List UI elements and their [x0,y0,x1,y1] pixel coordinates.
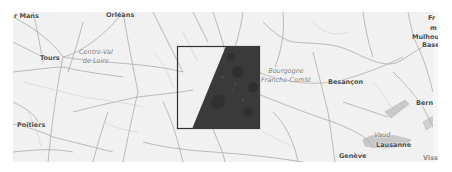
city-label-poitiers: Poitiers [17,122,45,129]
city-label-le-mans: r Mans [14,13,39,20]
city-label-besancon: Besançon [328,79,363,86]
city-label-lausanne: Lausanne [376,142,411,149]
region-label-line2: Franche-Comté [261,77,311,84]
city-label-geneve: Genève [339,153,366,160]
region-label-line1: Bourgogne [261,68,311,75]
city-label-visso: Visso [423,155,438,162]
region-label-line1: Vaud [374,132,390,139]
city-label-bern: Bern [416,100,433,107]
map-canvas[interactable]: r Mans Orléans Tours Poitiers Besançon M… [13,12,438,162]
region-label-bourgogne-franche-comte: Bourgogne Franche-Comté [261,68,311,83]
city-label-basel: Base [422,42,438,49]
city-label-mulhouse: Mulhouse [412,34,438,41]
city-label-fr: Fr [428,15,435,22]
city-label-tours: Tours [40,55,60,62]
region-label-centre-val-de-loire: Centre-Val de Loire [79,49,113,64]
basemap-roads [13,12,438,162]
region-label-vaud: Vaud [374,132,390,139]
region-label-line1: Centre-Val [79,49,113,56]
city-label-orleans: Orléans [106,12,134,19]
region-label-line2: de Loire [79,58,113,65]
city-label-m: m [430,25,437,32]
